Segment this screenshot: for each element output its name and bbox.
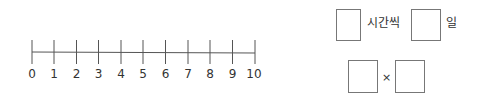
multiply-operator: × [382, 71, 391, 85]
tick-label-3: 3 [95, 67, 103, 81]
hours-each-label: 시간씩 [367, 16, 400, 30]
tick-label-9: 9 [229, 67, 237, 81]
days-answer-box[interactable] [411, 9, 441, 41]
hours-answer-box[interactable] [336, 9, 361, 41]
tick-label-2: 2 [73, 67, 81, 81]
number-line-axis [0, 0, 260, 102]
tick-label-10: 10 [246, 67, 261, 81]
tick-label-0: 0 [28, 67, 36, 81]
tick-label-5: 5 [139, 67, 147, 81]
multiplier-box[interactable] [395, 60, 425, 93]
number-line: 0 1 2 3 4 5 6 7 8 9 10 [0, 0, 260, 102]
tick-label-6: 6 [162, 67, 170, 81]
tick-label-1: 1 [50, 67, 58, 81]
days-label: 일 [446, 16, 457, 30]
tick-label-8: 8 [206, 67, 214, 81]
tick-label-4: 4 [117, 67, 125, 81]
multiplicand-box[interactable] [348, 60, 378, 93]
tick-label-7: 7 [184, 67, 192, 81]
